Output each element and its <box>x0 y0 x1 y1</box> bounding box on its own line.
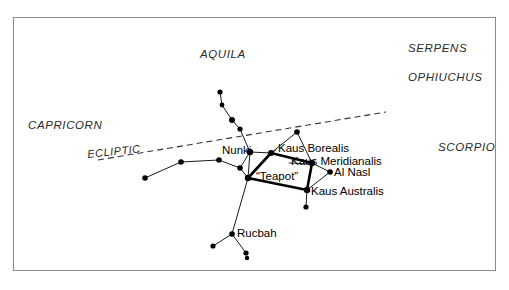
star-label-kaus-borealis: Kaus Borealis <box>278 142 349 154</box>
star-chart-figure: AQUILASERPENSOPHIUCHUSCAPRICORNSCORPIO E… <box>0 0 509 290</box>
star-label-nunki: Nunki <box>222 144 251 156</box>
star-label-kaus-australis: Kaus Australis <box>311 185 384 197</box>
teapot-label: “Teapot” <box>256 170 298 182</box>
constellation-label-scorpio: SCORPIO <box>438 141 495 153</box>
constellation-label-serpens: SERPENS <box>408 42 467 54</box>
constellation-label-ophiuchus: OPHIUCHUS <box>408 71 482 83</box>
label-layer: AQUILASERPENSOPHIUCHUSCAPRICORNSCORPIO E… <box>0 0 509 290</box>
star-label-rucbah: Rucbah <box>237 227 277 239</box>
star-label-al-nasl: Al Nasl <box>334 166 370 178</box>
constellation-label-capricorn: CAPRICORN <box>28 119 102 131</box>
ecliptic-label: ECLIPTIC <box>87 142 141 160</box>
constellation-label-aquila: AQUILA <box>200 48 246 60</box>
